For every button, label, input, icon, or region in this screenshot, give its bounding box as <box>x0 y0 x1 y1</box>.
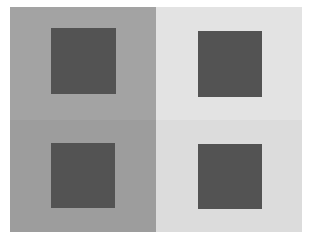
square-bottom-left <box>51 143 115 208</box>
square-bottom-right <box>198 144 262 209</box>
square-top-right <box>198 31 262 97</box>
square-top-left <box>51 28 116 94</box>
